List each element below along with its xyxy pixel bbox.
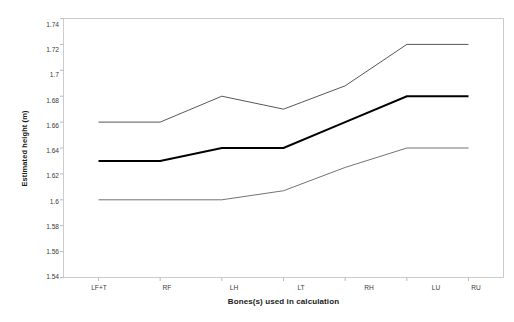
x-tick-marks (99, 278, 469, 282)
plot-area (0, 0, 514, 322)
x-tick-label-rh: RH (342, 284, 396, 291)
series-line-central-estimate (99, 96, 469, 161)
y-tick-marks (60, 19, 64, 278)
data-series-layer (99, 44, 469, 199)
x-tick-label-lh: LH (207, 284, 261, 291)
x-tick-label-lft: LF+T (72, 284, 126, 291)
x-axis-label: Bones(s) used in calculation (63, 297, 504, 306)
x-tick-label-rf: RF (140, 284, 194, 291)
series-line-lower-bound (99, 148, 469, 200)
chart-figure: Estimated height (m) 1.74 1.72 1.7 1.68 … (0, 0, 514, 322)
x-tick-label-ru: RU (449, 284, 503, 291)
series-line-upper-bound (99, 44, 469, 122)
x-tick-label-lt: LT (274, 284, 328, 291)
